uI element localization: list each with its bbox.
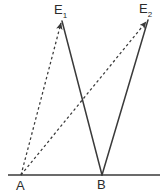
geometry-figure: E1 E2 A B bbox=[0, 0, 167, 193]
segment-E1-to-B bbox=[62, 21, 102, 175]
segment-A-to-E1 bbox=[21, 23, 61, 175]
vertex-label-e2-sub: 2 bbox=[148, 10, 152, 19]
vertex-label-a: A bbox=[16, 179, 25, 192]
vertex-label-b: B bbox=[97, 178, 106, 191]
vertex-label-e2: E2 bbox=[139, 2, 152, 19]
segment-A-to-E2 bbox=[21, 22, 146, 175]
vertex-label-e1-sub: 1 bbox=[63, 11, 67, 20]
diagram-canvas bbox=[0, 0, 167, 193]
vertex-label-e1: E1 bbox=[54, 3, 67, 20]
vertex-label-e1-main: E bbox=[54, 2, 63, 17]
segment-B-to-E2 bbox=[102, 20, 148, 175]
vertex-label-e2-main: E bbox=[139, 1, 148, 16]
